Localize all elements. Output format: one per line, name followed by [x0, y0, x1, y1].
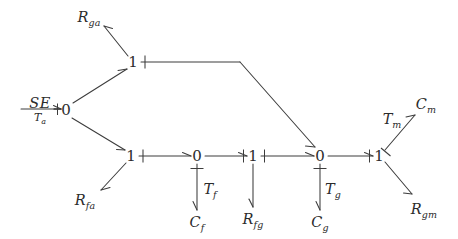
- bond-label-t-g: Tg: [325, 182, 341, 197]
- bond-junction1-mid-to-junction0-right: [261, 150, 314, 163]
- bond-junction0-mid-to-cf: [191, 164, 204, 210]
- element-c-m[interactable]: Cm: [416, 97, 436, 112]
- junction-1-mid[interactable]: 1: [248, 149, 258, 164]
- element-r-gm[interactable]: Rgm: [411, 202, 437, 217]
- bond-label-t-f: Tf: [203, 182, 216, 197]
- bond-graph-canvas: SE Ta 0 1 1 0 1 0 1 Rga Rfa Cf Rfg Cg Cm…: [0, 0, 458, 239]
- junction-1-lower[interactable]: 1: [126, 149, 136, 164]
- junction-0-mid[interactable]: 0: [192, 149, 202, 164]
- bond-junction1-top-to-junction0-right: [141, 56, 315, 148]
- bond-junction1-mid-to-rfg: [249, 164, 253, 207]
- element-r-fg[interactable]: Rfg: [243, 212, 264, 227]
- bond-junction0-mid-to-junction1-mid: [205, 150, 247, 163]
- element-r-ga[interactable]: Rga: [77, 10, 100, 25]
- junction-0-right[interactable]: 0: [315, 149, 325, 164]
- effort-source-label: SE Ta: [29, 96, 51, 123]
- effort-source-subject: Ta: [29, 112, 51, 123]
- bond-junction0-left-to-junction1-top: [73, 69, 127, 103]
- junction-0-left[interactable]: 0: [61, 103, 71, 118]
- bond-junction1-lower-to-junction0-mid: [139, 150, 191, 163]
- junction-1-top[interactable]: 1: [128, 55, 138, 70]
- bond-junction1-top-to-rga: [104, 26, 128, 56]
- effort-source-symbol: SE: [29, 96, 51, 111]
- junction-1-right[interactable]: 1: [374, 149, 384, 164]
- element-c-f[interactable]: Cf: [190, 215, 205, 230]
- bond-junction0-right-to-junction1-right: [328, 150, 373, 163]
- element-r-fa[interactable]: Rfa: [75, 193, 96, 208]
- bond-label-t-m: Tm: [383, 112, 402, 127]
- bond-junction1-right-to-rgm: [385, 162, 412, 194]
- element-c-g[interactable]: Cg: [311, 215, 328, 230]
- bond-junction1-lower-to-rfa: [101, 163, 126, 190]
- bond-junction0-left-to-junction1-lower: [72, 118, 125, 150]
